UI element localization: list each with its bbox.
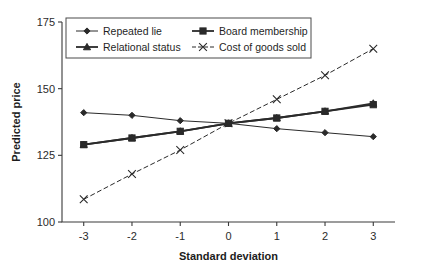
legend-label: Cost of goods sold (219, 41, 306, 53)
diamond-marker (322, 130, 328, 136)
cross-marker (321, 71, 329, 79)
chart-legend: Repeated lieBoard membershipRelational s… (66, 18, 311, 58)
diamond-marker (274, 126, 280, 132)
square-marker (200, 28, 206, 34)
cross-marker (273, 95, 281, 103)
y-tick-label: 125 (37, 149, 55, 161)
x-tick-label: -1 (175, 230, 185, 242)
cross-marker (176, 146, 184, 154)
diamond-marker (370, 134, 376, 140)
legend-label: Board membership (219, 25, 308, 37)
diamond-marker (177, 118, 183, 124)
x-tick-label: 2 (322, 230, 328, 242)
x-tick-label: -3 (79, 230, 89, 242)
legend-label: Repeated lie (103, 25, 162, 37)
y-tick-label: 100 (37, 216, 55, 228)
y-tick-label: 150 (37, 83, 55, 95)
diamond-marker (81, 110, 87, 116)
legend-label: Relational status (103, 41, 181, 53)
chart-container: 100125150175-3-2-10123Standard deviation… (0, 0, 423, 273)
series-cost-of-goods-sold (80, 45, 377, 203)
cross-marker (369, 45, 377, 53)
x-axis-ticks: -3-2-10123 (79, 222, 377, 242)
y-axis-title: Predicted price (10, 82, 22, 161)
x-tick-label: 3 (370, 230, 376, 242)
x-tick-label: 0 (225, 230, 231, 242)
cross-marker (128, 170, 136, 178)
predicted-price-line-chart: 100125150175-3-2-10123Standard deviation… (0, 0, 423, 273)
x-axis-title: Standard deviation (179, 250, 278, 262)
x-tick-label: -2 (127, 230, 137, 242)
cross-marker (80, 195, 88, 203)
diamond-marker (129, 112, 135, 118)
y-tick-label: 175 (37, 16, 55, 28)
y-axis-ticks: 100125150175 (37, 16, 62, 228)
x-tick-label: 1 (274, 230, 280, 242)
